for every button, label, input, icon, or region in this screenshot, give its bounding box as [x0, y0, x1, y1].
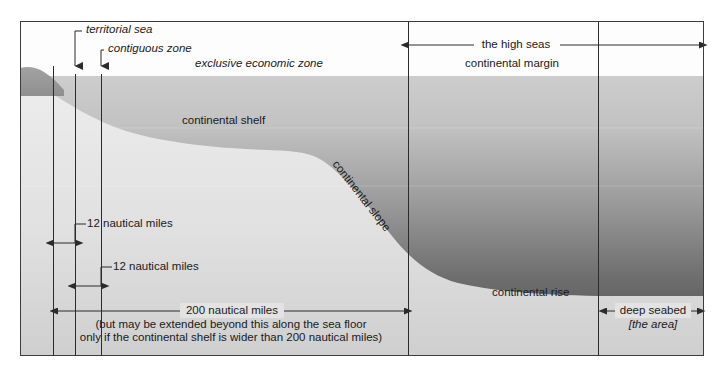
label-continental-margin: continental margin	[465, 57, 559, 70]
maritime-zones-diagram: territorial sea contiguous zone exclusiv…	[0, 0, 714, 377]
measure-label-territorial-sea-width: 12 nautical miles	[87, 217, 173, 230]
measure-label-200-nautical-miles: 200 nautical miles	[181, 304, 283, 317]
callout-contiguous-zone: contiguous zone	[108, 42, 192, 55]
note-200nm-extension: (but may be extended beyond this along t…	[31, 318, 431, 344]
label-exclusive-economic-zone: exclusive economic zone	[195, 57, 323, 70]
measure-label-deep-seabed: deep seabed	[616, 304, 690, 317]
note-deep-seabed-the-area: [the area]	[616, 318, 690, 331]
note-200nm-line1: (but may be extended beyond this along t…	[31, 318, 431, 331]
label-continental-rise: continental rise	[492, 286, 569, 299]
callout-territorial-sea: territorial sea	[86, 23, 152, 36]
measure-label-contiguous-zone-width: 12 nautical miles	[113, 260, 199, 273]
note-200nm-line2: only if the continental shelf is wider t…	[31, 331, 431, 344]
measure-label-high-seas: the high seas	[466, 38, 566, 51]
label-continental-shelf: continental shelf	[182, 114, 265, 127]
